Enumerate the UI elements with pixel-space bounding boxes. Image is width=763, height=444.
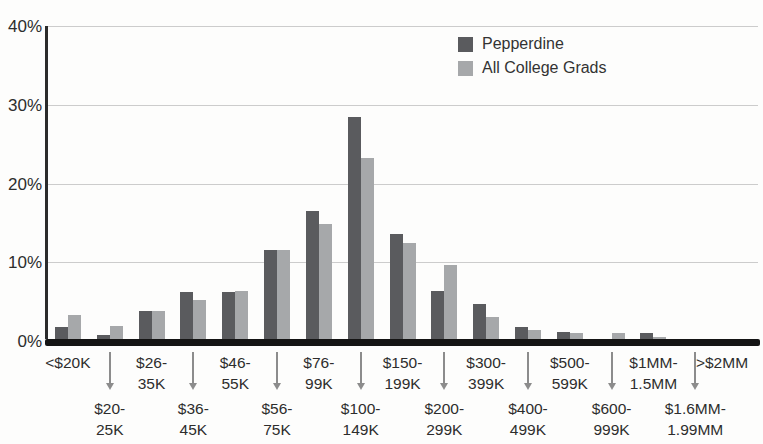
down-arrow-icon bbox=[276, 352, 278, 383]
down-arrow-icon bbox=[360, 352, 362, 383]
legend: Pepperdine All College Grads bbox=[458, 36, 607, 84]
bar-all-college-grads bbox=[319, 224, 332, 341]
down-arrow-icon bbox=[691, 383, 699, 390]
legend-swatch-pepperdine-icon bbox=[458, 37, 473, 52]
bar-all-college-grads bbox=[68, 315, 81, 341]
x-label--76-99k: $76- 99K bbox=[280, 352, 358, 394]
x-label--56-75k: $56- 75K bbox=[238, 398, 316, 440]
down-arrow-icon bbox=[106, 383, 114, 390]
bar-all-college-grads bbox=[152, 311, 165, 341]
x-label--600-999k: $600- 999K bbox=[573, 398, 651, 440]
legend-item-pepperdine: Pepperdine bbox=[458, 36, 607, 52]
bar-all-college-grads bbox=[444, 265, 457, 341]
legend-label-all-college-grads: All College Grads bbox=[482, 59, 607, 77]
x-axis-line bbox=[45, 339, 760, 346]
y-tick-label-20%: 20% bbox=[0, 176, 42, 193]
y-tick-label-30%: 30% bbox=[0, 97, 42, 114]
legend-swatch-all-college-grads-icon bbox=[458, 61, 473, 76]
gridline-20% bbox=[47, 184, 758, 185]
bar-pepperdine bbox=[306, 211, 319, 341]
x-label--1-6mm-1-99mm: $1.6MM- 1.99MM bbox=[656, 398, 734, 440]
down-arrow-icon bbox=[527, 352, 529, 383]
down-arrow-icon bbox=[273, 383, 281, 390]
y-tick-label-10%: 10% bbox=[0, 254, 42, 271]
down-arrow-icon bbox=[189, 383, 197, 390]
y-tick-label-40%: 40% bbox=[0, 18, 42, 35]
x-label--150-199k: $150- 199K bbox=[364, 352, 442, 394]
x-label--26-35k: $26- 35K bbox=[113, 352, 191, 394]
x-label--500-599k: $500- 599K bbox=[531, 352, 609, 394]
down-arrow-icon bbox=[694, 352, 696, 383]
bar-pepperdine bbox=[264, 250, 277, 341]
bar-pepperdine bbox=[180, 292, 193, 341]
down-arrow-icon bbox=[357, 383, 365, 390]
bar-pepperdine bbox=[473, 304, 486, 341]
bar-pepperdine bbox=[348, 117, 361, 341]
bar-all-college-grads bbox=[486, 317, 499, 341]
down-arrow-icon bbox=[440, 383, 448, 390]
x-label--400-499k: $400- 499K bbox=[489, 398, 567, 440]
gridline-40% bbox=[47, 26, 758, 27]
down-arrow-icon bbox=[524, 383, 532, 390]
down-arrow-icon bbox=[608, 383, 616, 390]
bar-all-college-grads bbox=[277, 250, 290, 341]
down-arrow-icon bbox=[443, 352, 445, 383]
legend-item-all-college-grads: All College Grads bbox=[458, 60, 607, 76]
y-tick-label-0%: 0% bbox=[0, 333, 42, 350]
down-arrow-icon bbox=[611, 352, 613, 383]
x-label--36-45k: $36- 45K bbox=[154, 398, 232, 440]
bar-pepperdine bbox=[431, 291, 444, 341]
gridline-30% bbox=[47, 105, 758, 106]
x-label--300-399k: $300- 399K bbox=[447, 352, 525, 394]
down-arrow-icon bbox=[109, 352, 111, 383]
bar-all-college-grads bbox=[193, 300, 206, 341]
x-label--20-25k: $20- 25K bbox=[71, 398, 149, 440]
bar-all-college-grads bbox=[361, 158, 374, 341]
x-label--200-299k: $200- 299K bbox=[405, 398, 483, 440]
x-label--100-149k: $100- 149K bbox=[322, 398, 400, 440]
bar-all-college-grads bbox=[235, 291, 248, 341]
bar-pepperdine bbox=[390, 234, 403, 341]
bar-all-college-grads bbox=[403, 243, 416, 341]
x-label--1mm-1-5mm: $1MM- 1.5MM bbox=[614, 352, 692, 394]
income-distribution-chart: 0%10%20%30%40% <$20K$20- 25K$26- 35K$36-… bbox=[0, 0, 763, 444]
bar-pepperdine bbox=[222, 292, 235, 341]
down-arrow-icon bbox=[192, 352, 194, 383]
y-axis-line bbox=[45, 26, 48, 339]
legend-label-pepperdine: Pepperdine bbox=[482, 35, 564, 53]
bar-pepperdine bbox=[139, 311, 152, 341]
x-label--20k: <$20K bbox=[29, 352, 107, 373]
x-label--46-55k: $46- 55K bbox=[196, 352, 274, 394]
